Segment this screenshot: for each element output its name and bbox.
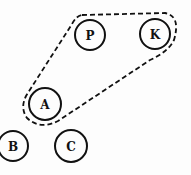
- node-label: B: [8, 140, 18, 154]
- node-A: A: [29, 88, 61, 120]
- node-K: K: [140, 19, 170, 49]
- diagram-canvas: P K A B C: [0, 0, 191, 175]
- node-label: K: [150, 28, 161, 42]
- node-label: C: [66, 140, 76, 154]
- node-C: C: [55, 130, 87, 162]
- node-B: B: [0, 131, 28, 161]
- node-P: P: [75, 20, 105, 50]
- diagram-svg: P K A B C: [0, 0, 191, 175]
- node-label: A: [39, 98, 50, 112]
- node-label: P: [85, 29, 94, 43]
